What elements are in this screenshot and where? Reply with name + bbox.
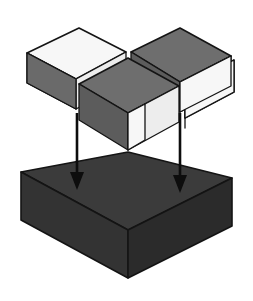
solid-slab <box>21 152 232 278</box>
diagram-canvas <box>0 0 253 301</box>
isometric-diagram <box>0 0 253 301</box>
